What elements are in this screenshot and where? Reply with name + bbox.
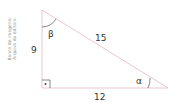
- label-leg-vertical: 9: [31, 45, 37, 55]
- alpha-arc: [148, 78, 150, 88]
- label-beta: β: [48, 29, 54, 39]
- label-alpha: α: [136, 76, 142, 86]
- right-angle-dot: [45, 83, 47, 85]
- beta-arc: [42, 19, 56, 27]
- label-leg-horizontal: 12: [94, 92, 105, 102]
- triangle-shape: [42, 10, 168, 88]
- label-hypotenuse: 15: [95, 33, 106, 43]
- right-triangle-diagram: β α 15 9 12: [0, 0, 174, 103]
